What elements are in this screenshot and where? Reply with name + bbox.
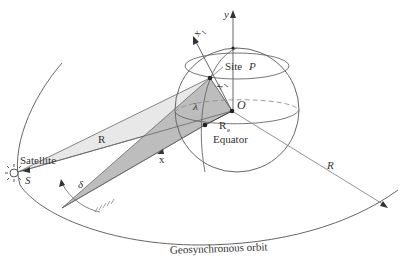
equator-point bbox=[203, 123, 208, 128]
delta-label: δ bbox=[78, 178, 84, 190]
delta-arrow-icon bbox=[59, 179, 65, 187]
origin-label: O bbox=[237, 98, 246, 112]
orbit-radius-line bbox=[232, 111, 386, 206]
pole-point bbox=[231, 46, 234, 49]
site-point-label: P bbox=[248, 60, 256, 72]
y-axis-arrow-icon bbox=[230, 10, 236, 18]
orbit-label: Geosynchronous orbit bbox=[170, 240, 268, 255]
orbit-radius-label: R bbox=[326, 159, 334, 171]
earth-radius-label: R bbox=[219, 119, 227, 131]
ground-hatch-marks bbox=[95, 199, 114, 212]
satellite-label: Satellite bbox=[20, 154, 56, 166]
x-axis-label: x bbox=[159, 153, 165, 165]
diagram-canvas: Satellite S R δ x y x 1 x 1 Site P λ O R… bbox=[0, 0, 407, 258]
site-label: Site bbox=[225, 60, 242, 72]
origin-point bbox=[230, 109, 235, 114]
orbit-radius-arrow-icon bbox=[380, 201, 388, 208]
latitude-label: λ bbox=[192, 100, 198, 112]
range-label: R bbox=[98, 133, 106, 145]
satellite-point-label: S bbox=[25, 174, 31, 186]
y-axis-label: y bbox=[223, 8, 229, 20]
equator-label: Equator bbox=[213, 133, 248, 145]
